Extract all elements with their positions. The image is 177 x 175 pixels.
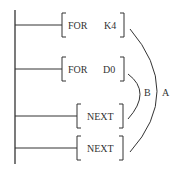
bracket-left — [62, 57, 66, 81]
bracket-right — [119, 136, 123, 160]
rung-1-operand: K4 — [104, 20, 116, 31]
rung-4-instruction: NEXT — [87, 143, 114, 154]
bracket-right — [120, 57, 124, 81]
loop-arc-b — [128, 74, 140, 119]
rung-1: FOR K4 — [15, 13, 124, 37]
bracket-left — [62, 13, 66, 37]
bracket-right — [119, 104, 123, 128]
rung-3-instruction: NEXT — [87, 111, 114, 122]
ladder-svg: FOR K4 FOR D0 NEXT NEXT B A — [0, 0, 177, 175]
loop-label-b: B — [144, 87, 151, 98]
rung-2-operand: D0 — [103, 64, 115, 75]
rung-2-instruction: FOR — [68, 64, 88, 75]
rung-4: NEXT — [15, 136, 123, 160]
bracket-right — [120, 13, 124, 37]
loop-label-a: A — [162, 87, 170, 98]
ladder-diagram: FOR K4 FOR D0 NEXT NEXT B A — [0, 0, 177, 175]
bracket-left — [77, 104, 81, 128]
rung-1-instruction: FOR — [68, 20, 88, 31]
rung-3: NEXT — [15, 104, 123, 128]
bracket-left — [77, 136, 81, 160]
rung-2: FOR D0 — [15, 57, 124, 81]
